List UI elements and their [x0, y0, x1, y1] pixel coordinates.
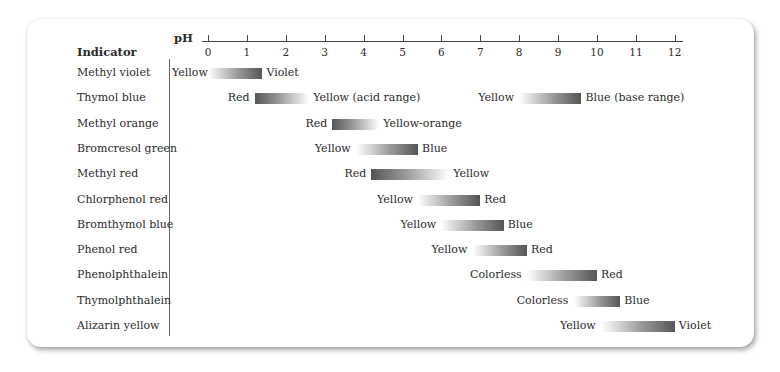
- low-ph-color-label: Yellow: [400, 218, 436, 231]
- axis-tick: [558, 35, 559, 42]
- axis-tick-label: 3: [315, 46, 335, 58]
- high-ph-color-label: Blue: [508, 218, 533, 231]
- low-ph-color-label: Colorless: [517, 294, 569, 307]
- high-ph-color-label: Blue (base range): [585, 91, 684, 104]
- indicator-name: Chlorphenol red: [77, 193, 168, 206]
- indicator-name: Bromcresol green: [77, 142, 177, 155]
- axis-tick: [208, 35, 209, 42]
- axis-tick-label: 12: [665, 46, 685, 58]
- axis-tick: [675, 35, 676, 42]
- transition-range-bar: [473, 245, 527, 256]
- transition-range-bar: [208, 68, 262, 79]
- high-ph-color-label: Blue: [422, 142, 447, 155]
- low-ph-color-label: Yellow: [478, 91, 514, 104]
- axis-tick-label: 5: [393, 46, 413, 58]
- axis-tick-label: 9: [548, 46, 568, 58]
- ph-axis-label: pH: [174, 31, 193, 45]
- indicator-name: Alizarin yellow: [77, 319, 160, 332]
- high-ph-color-label: Violet: [679, 319, 711, 332]
- low-ph-color-label: Red: [344, 167, 366, 180]
- indicator-name: Phenolphthalein: [77, 268, 168, 281]
- transition-range-bar: [332, 119, 379, 130]
- high-ph-color-label: Blue: [624, 294, 649, 307]
- high-ph-color-label: Yellow-orange: [383, 117, 462, 130]
- axis-tick: [364, 35, 365, 42]
- indicator-name: Thymolphthalein: [77, 294, 171, 307]
- axis-tick-label: 8: [509, 46, 529, 58]
- transition-range-bar: [255, 93, 309, 104]
- transition-range-bar: [527, 270, 597, 281]
- high-ph-color-label: Yellow: [453, 167, 489, 180]
- transition-range-bar: [371, 169, 449, 180]
- axis-tick: [247, 35, 248, 42]
- transition-range-bar: [601, 321, 675, 332]
- axis-tick-label: 4: [354, 46, 374, 58]
- axis-tick-label: 2: [276, 46, 296, 58]
- indicator-name: Methyl red: [77, 167, 138, 180]
- axis-tick-label: 11: [626, 46, 646, 58]
- axis-tick: [286, 35, 287, 42]
- indicator-header: Indicator: [77, 45, 137, 59]
- transition-range-bar: [356, 144, 418, 155]
- axis-tick-label: 6: [431, 46, 451, 58]
- axis-tick: [519, 35, 520, 42]
- low-ph-color-label: Yellow: [377, 193, 413, 206]
- high-ph-color-label: Red: [601, 268, 623, 281]
- transition-range-bar: [441, 220, 503, 231]
- low-ph-color-label: Yellow: [560, 319, 596, 332]
- high-ph-color-label: Red: [484, 193, 506, 206]
- transition-range-bar: [418, 195, 480, 206]
- axis-tick-label: 1: [237, 46, 257, 58]
- high-ph-color-label: Red: [531, 243, 553, 256]
- axis-tick-label: 10: [587, 46, 607, 58]
- axis-tick-label: 0: [198, 46, 218, 58]
- axis-tick: [597, 35, 598, 42]
- axis-tick: [636, 35, 637, 42]
- transition-range-bar: [574, 296, 621, 307]
- ph-axis-line: [202, 41, 683, 42]
- axis-tick: [325, 35, 326, 42]
- indicator-name: Bromthymol blue: [77, 218, 173, 231]
- axis-tick: [403, 35, 404, 42]
- axis-tick-label: 7: [470, 46, 490, 58]
- indicator-name: Phenol red: [77, 243, 138, 256]
- low-ph-color-label: Yellow: [432, 243, 468, 256]
- axis-tick: [441, 35, 442, 42]
- axis-tick: [480, 35, 481, 42]
- low-ph-color-label: Yellow: [315, 142, 351, 155]
- low-ph-color-label: Yellow: [172, 66, 208, 79]
- low-ph-color-label: Red: [228, 91, 250, 104]
- indicator-name: Methyl violet: [77, 66, 150, 79]
- indicator-name: Thymol blue: [77, 91, 146, 104]
- low-ph-color-label: Red: [305, 117, 327, 130]
- transition-range-bar: [519, 93, 581, 104]
- low-ph-color-label: Colorless: [470, 268, 522, 281]
- indicator-name: Methyl orange: [77, 117, 159, 130]
- high-ph-color-label: Violet: [266, 66, 298, 79]
- high-ph-color-label: Yellow (acid range): [313, 91, 420, 104]
